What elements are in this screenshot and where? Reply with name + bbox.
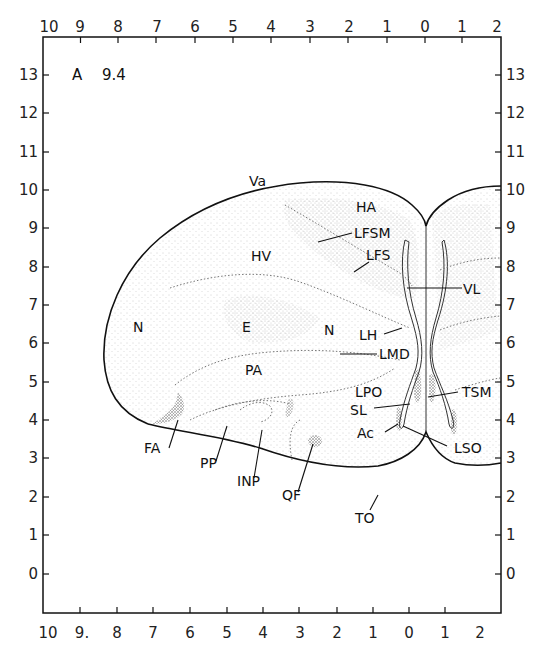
top-axis-label: 4 [266,18,276,36]
bottom-axis-label: 10 [38,624,57,642]
right-axis-label: 5 [506,373,516,391]
left-axis-label: 10 [19,181,38,199]
top-axis-label: 10 [39,18,58,36]
label-vl: VL [463,281,481,297]
label-ha: HA [356,199,377,215]
left-axis-label: 6 [28,334,38,352]
label-lh: LH [359,327,377,343]
bottom-axis-label: 4 [258,624,268,642]
right-axis-label: 10 [506,181,525,199]
left-axis-label: 9 [28,219,38,237]
plate-number: 9.4 [102,66,126,84]
top-axis: 10 9 8 7 6 5 4 3 2 1 0 1 2 [39,18,501,43]
right-axis-label: 4 [506,411,516,429]
left-axis-label: 11 [19,143,38,161]
bottom-axis-label: 2 [475,624,485,642]
top-axis-label: 2 [492,18,502,36]
label-va: Va [249,173,266,189]
top-axis-label: 6 [190,18,200,36]
ac-cluster [396,407,402,431]
right-axis-label: 12 [506,104,525,122]
top-axis-label: 3 [305,18,315,36]
label-hv: HV [251,248,272,264]
left-axis-label: 4 [28,411,38,429]
bottom-axis-label: 9. [75,624,89,642]
left-axis-label: 0 [28,565,38,583]
brain-section [104,182,501,467]
bottom-axis-label: 6 [185,624,195,642]
bottom-axis-label: 2 [332,624,342,642]
left-axis-label: 13 [19,66,38,84]
label-pp: PP [200,455,217,471]
top-axis-label: 7 [152,18,162,36]
label-n-lateral: N [133,319,143,335]
label-lpo: LPO [355,384,382,400]
bottom-axis-label: 5 [222,624,232,642]
top-axis-label: 5 [228,18,238,36]
label-ac: Ac [357,425,374,441]
label-tsm: TSM [461,384,492,400]
left-axis-label: 1 [28,526,38,544]
label-to: TO [354,510,375,526]
bottom-axis-label: 1 [440,624,450,642]
label-n-medial: N [324,322,334,338]
label-fa: FA [144,440,161,456]
label-pa: PA [245,362,263,378]
right-axis-label: 3 [506,449,516,467]
label-lfs: LFS [366,247,391,263]
right-axis-label: 8 [506,258,516,276]
top-axis-label: 8 [113,18,123,36]
right-hemisphere-stipple [432,204,498,350]
left-axis: 13 12 11 10 9 8 7 6 5 4 3 2 1 0 [19,66,49,583]
brain-atlas-figure: 10 9 8 7 6 5 4 3 2 1 0 1 2 10 9. 8 7 6 5… [0,0,544,654]
right-axis-label: 13 [506,66,525,84]
left-axis-label: 12 [19,104,38,122]
label-qf: QF [282,487,301,503]
top-axis-label: 0 [420,18,430,36]
right-axis-label: 9 [506,219,516,237]
left-axis-label: 8 [28,258,38,276]
right-axis-label: 11 [506,143,525,161]
right-axis-label: 2 [506,488,516,506]
right-axis-label: 0 [506,565,516,583]
qf-cluster [308,435,322,447]
right-axis-label: 7 [506,296,516,314]
bottom-axis-label: 8 [112,624,122,642]
bottom-axis-label: 7 [148,624,158,642]
left-axis-label: 3 [28,449,38,467]
left-axis-label: 5 [28,373,38,391]
label-lmd: LMD [379,346,410,362]
plate-prefix: A [72,66,83,84]
top-axis-label: 9 [75,18,85,36]
label-sl: SL [350,402,367,418]
label-e: E [242,319,251,335]
top-axis-label: 1 [382,18,392,36]
right-axis-label: 6 [506,334,516,352]
label-lso: LSO [454,440,482,456]
label-inp: INP [237,473,260,489]
left-axis-label: 2 [28,488,38,506]
bottom-axis-label: 3 [295,624,305,642]
label-lfsm: LFSM [354,225,391,241]
top-axis-label: 2 [344,18,354,36]
right-axis-label: 1 [506,526,516,544]
top-axis-label: 1 [457,18,467,36]
bottom-axis-label: 0 [404,624,414,642]
left-axis-label: 7 [28,296,38,314]
bottom-axis-label: 1 [368,624,378,642]
